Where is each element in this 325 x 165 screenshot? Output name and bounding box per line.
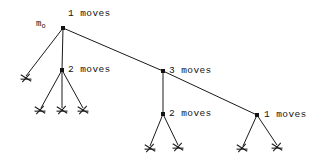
node-2-moves-left-label: 2 moves bbox=[68, 64, 111, 75]
leaf-markers-group bbox=[21, 74, 283, 152]
node-1-moves-right-dot bbox=[255, 113, 259, 117]
root-moves-label: 1 moves bbox=[68, 8, 111, 19]
node-3-moves-dot bbox=[161, 69, 165, 73]
node-3-moves-label: 3 moves bbox=[169, 65, 212, 76]
node-2-moves-lower-label: 2 moves bbox=[169, 108, 212, 119]
tree-graphics bbox=[0, 0, 325, 165]
root-symbol-subscript: o bbox=[41, 22, 45, 30]
move-tree-diagram: mo 1 moves 2 moves3 moves2 moves1 moves bbox=[0, 0, 325, 165]
leaf-x-marker bbox=[237, 144, 248, 152]
tree-edge bbox=[150, 114, 163, 146]
tree-edge bbox=[26, 28, 63, 76]
root-node-symbol: mo bbox=[36, 19, 46, 30]
node-1-moves-right-label: 1 moves bbox=[264, 109, 307, 120]
node-2-moves-lower-dot bbox=[161, 112, 165, 116]
tree-edge bbox=[62, 70, 83, 108]
leaf-x-marker bbox=[21, 74, 32, 82]
leaf-x-marker bbox=[35, 106, 46, 114]
tree-edge bbox=[243, 115, 257, 146]
tree-edge bbox=[41, 70, 62, 108]
tree-edge bbox=[62, 28, 63, 70]
edges-group bbox=[26, 28, 277, 146]
node-2-moves-left-dot bbox=[60, 68, 64, 72]
root-node-dot bbox=[61, 26, 65, 30]
